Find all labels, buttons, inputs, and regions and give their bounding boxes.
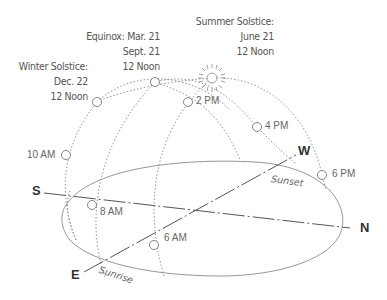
- direction-west: W: [298, 143, 310, 158]
- direction-north: N: [360, 220, 369, 235]
- label-4pm: 4 PM: [265, 120, 288, 131]
- winter-line-3: 12 Noon: [0, 89, 88, 104]
- winter-line-2: Dec. 22: [0, 74, 88, 89]
- equinox-path: [96, 79, 297, 277]
- summer-solstice-label: Summer Solstice: June 21 12 Noon: [168, 14, 274, 59]
- label-2pm: 2 PM: [196, 95, 219, 106]
- 6pm-marker: [318, 171, 327, 180]
- label-8am: 8 AM: [100, 206, 123, 217]
- equinox-line-1: Equinox: Mar. 21: [60, 29, 160, 44]
- summer-line-1: Summer Solstice:: [168, 14, 274, 29]
- winter-line-1: Winter Solstice:: [0, 59, 88, 74]
- label-6pm: 6 PM: [332, 168, 355, 179]
- summer-line-3: 12 Noon: [168, 44, 274, 59]
- 10am-marker: [62, 151, 71, 160]
- 6am-marker: [150, 241, 159, 250]
- summer-line-2: June 21: [168, 29, 274, 44]
- south-north-axis: [44, 193, 350, 228]
- equinox-noon-marker: [151, 78, 160, 87]
- direction-south: S: [32, 183, 41, 198]
- winter-solstice-label: Winter Solstice: Dec. 22 12 Noon: [0, 59, 88, 104]
- winter-noon-marker: [93, 98, 102, 107]
- equinox-line-2: Sept. 21: [60, 44, 160, 59]
- 4pm-marker: [253, 123, 262, 132]
- label-10am: 10 AM: [27, 149, 55, 160]
- 8am-marker: [88, 201, 97, 210]
- 2pm-marker: [184, 98, 193, 107]
- direction-east: E: [71, 267, 80, 282]
- label-6am: 6 AM: [164, 232, 187, 243]
